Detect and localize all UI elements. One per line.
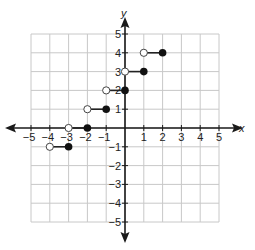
x-tick-label: 1 <box>141 131 147 143</box>
y-tick-label: 1 <box>115 103 121 115</box>
open-endpoint-icon <box>46 143 53 150</box>
y-tick-label: −3 <box>108 178 121 190</box>
open-endpoint-icon <box>65 124 72 131</box>
step-segment <box>84 105 110 113</box>
x-tick-label: 5 <box>216 131 222 143</box>
y-tick-label: −2 <box>108 160 121 172</box>
closed-endpoint-icon <box>84 124 92 132</box>
y-tick-label: −4 <box>108 197 121 209</box>
open-endpoint-icon <box>121 68 128 75</box>
y-tick-label: 3 <box>115 66 121 78</box>
step-segment <box>121 68 147 76</box>
x-tick-label: −5 <box>23 131 36 143</box>
closed-endpoint-icon <box>140 68 148 76</box>
open-endpoint-icon <box>103 87 110 94</box>
y-axis-label: y <box>120 7 128 19</box>
open-endpoint-icon <box>140 49 147 56</box>
x-tick-label: −3 <box>60 131 73 143</box>
step-segment <box>46 143 72 151</box>
y-tick-label: −5 <box>108 216 121 228</box>
open-endpoint-icon <box>84 106 91 113</box>
step-segment <box>65 124 91 132</box>
y-tick-label: −1 <box>108 141 121 153</box>
x-axis-label: x <box>238 122 245 134</box>
x-tick-label: −4 <box>42 131 55 143</box>
closed-endpoint-icon <box>65 143 73 151</box>
closed-endpoint-icon <box>121 87 129 95</box>
axes <box>5 17 243 243</box>
closed-endpoint-icon <box>102 105 110 113</box>
x-tick-label: −2 <box>79 131 92 143</box>
closed-endpoint-icon <box>159 49 167 57</box>
step-segment <box>140 49 166 57</box>
y-tick-label: 4 <box>115 47 121 59</box>
x-tick-label: 4 <box>197 131 203 143</box>
x-tick-label: 3 <box>178 131 184 143</box>
x-tick-label: 2 <box>160 131 166 143</box>
y-tick-label: 5 <box>115 28 121 40</box>
step-function-graph: −5−4−3−2−11234554321−1−2−3−4−5 x y <box>0 0 255 250</box>
